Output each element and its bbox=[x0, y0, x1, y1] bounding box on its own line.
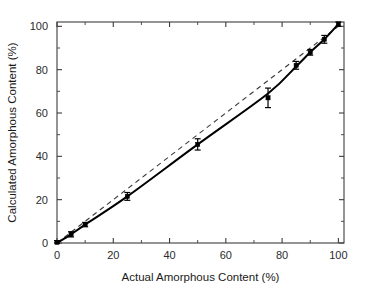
data-point-marker bbox=[125, 194, 129, 198]
data-point-marker bbox=[69, 232, 73, 236]
data-point-marker bbox=[83, 222, 87, 226]
data-point-marker bbox=[322, 37, 326, 41]
data-point-marker bbox=[308, 50, 312, 54]
amorphous-content-calibration-chart: 020406080100 020406080100 Actual Amorpho… bbox=[0, 0, 365, 292]
y-tick-label: 100 bbox=[30, 20, 48, 32]
y-tick-label: 0 bbox=[42, 237, 48, 249]
figure-container: 020406080100 020406080100 Actual Amorpho… bbox=[0, 0, 365, 292]
y-tick-label: 60 bbox=[36, 107, 48, 119]
x-tick-label: 100 bbox=[329, 249, 347, 261]
y-tick-label: 20 bbox=[36, 194, 48, 206]
y-tick-label: 80 bbox=[36, 64, 48, 76]
data-point-marker bbox=[266, 96, 270, 100]
x-tick-label: 40 bbox=[163, 249, 175, 261]
y-axis-title: Calculated Amorphous Content (%) bbox=[6, 42, 18, 222]
x-tick-label: 20 bbox=[107, 249, 119, 261]
data-point-marker bbox=[196, 142, 200, 146]
data-point-marker bbox=[55, 240, 59, 244]
data-point-marker bbox=[294, 63, 298, 67]
y-tick-label: 40 bbox=[36, 150, 48, 162]
x-tick-label: 80 bbox=[276, 249, 288, 261]
data-point-marker bbox=[336, 22, 340, 26]
x-tick-label: 0 bbox=[54, 249, 60, 261]
x-tick-label: 60 bbox=[220, 249, 232, 261]
x-axis-title: Actual Amorphous Content (%) bbox=[122, 271, 280, 283]
